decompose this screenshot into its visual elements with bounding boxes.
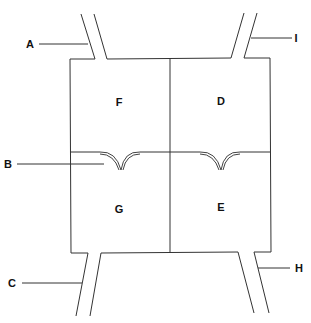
chamber-outline [70,58,271,253]
valve-left [100,152,140,170]
vessel-upper-right [231,13,257,58]
valve-right [200,152,240,170]
vessel-lower-right [238,252,269,313]
chamber-label-g: G [115,204,124,215]
pointer-label-b: B [4,159,12,170]
pointer-label-h: H [295,263,303,274]
pointer-label-c: C [8,278,16,289]
vessel-upper-left [81,14,107,59]
chamber-label-e: E [217,202,224,213]
pointer-label-a: A [26,39,34,50]
chamber-label-f: F [116,97,123,108]
chamber-label-d: D [217,96,225,107]
vessel-lower-left [76,253,101,316]
heart-diagram [0,0,311,323]
pointer-label-i: I [294,33,297,44]
